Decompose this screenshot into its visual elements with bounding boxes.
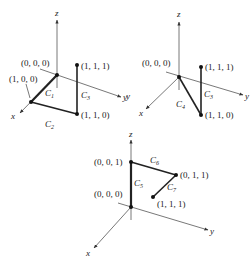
point-origin [129,205,133,209]
point-1-0-0 [29,100,33,104]
point-1-1-0 [75,112,79,116]
panel-2: z y x y (0, 0, 0) (1, 1, 1) (1, 1, 0) C4… [125,9,249,120]
panel-1: z y x (0, 0, 0) (1, 0, 0) (1, 1, 1) (1, … [9,8,127,130]
curve-label-c5: C5 [134,178,143,189]
point-origin [177,75,181,79]
label-origin: (0, 0, 0) [94,189,123,199]
stray-y-label: y [125,91,130,101]
x-axis-label: x [10,111,15,121]
label-0-1-1: (0, 1, 1) [180,170,209,180]
point-origin [55,73,59,77]
curve-label-c7: C7 [167,182,177,193]
label-1-1-1: (1, 1, 1) [205,62,234,72]
label-0-0-1: (0, 0, 1) [94,157,123,167]
curve-label-c4: C4 [176,99,185,110]
label-1-1-1: (1, 1, 1) [157,199,186,209]
point-1-1-0 [199,113,203,117]
label-origin: (0, 0, 0) [142,58,171,68]
label-1-1-1: (1, 1, 1) [81,61,110,71]
x-axis [94,207,131,248]
x-axis [146,77,179,109]
z-axis-label: z [128,129,133,139]
z-axis-label: z [54,8,59,18]
panel-3: z y x (0, 0, 1) (0, 0, 0) (0, 1, 1) (1, … [85,129,214,258]
point-1-1-1 [151,195,155,199]
curve-label-c6: C6 [150,155,159,166]
piecewise-curves-diagram: z y x (0, 0, 0) (1, 0, 0) (1, 1, 1) (1, … [0,0,251,264]
curve-c2 [31,102,77,114]
leader-line [26,84,30,98]
point-0-0-1 [129,160,133,164]
point-0-1-1 [174,173,178,177]
label-1-1-0: (1, 1, 0) [205,110,234,120]
x-axis-label: x [85,248,90,258]
curve-label-c1: C1 [45,88,54,99]
y-axis-label: y [209,226,214,236]
curve-label-c3: C3 [81,90,90,101]
label-1-1-0: (1, 1, 0) [81,110,110,120]
label-1-0-0: (1, 0, 0) [9,74,38,84]
z-axis-label: z [176,9,181,19]
curve-label-c3: C3 [204,89,213,100]
curve-label-c2: C2 [45,119,54,130]
label-origin: (0, 0, 0) [21,58,50,68]
point-1-1-1 [75,63,79,67]
y-axis-label: y [244,91,249,101]
point-1-1-1 [199,65,203,69]
x-axis-label: x [138,108,143,118]
